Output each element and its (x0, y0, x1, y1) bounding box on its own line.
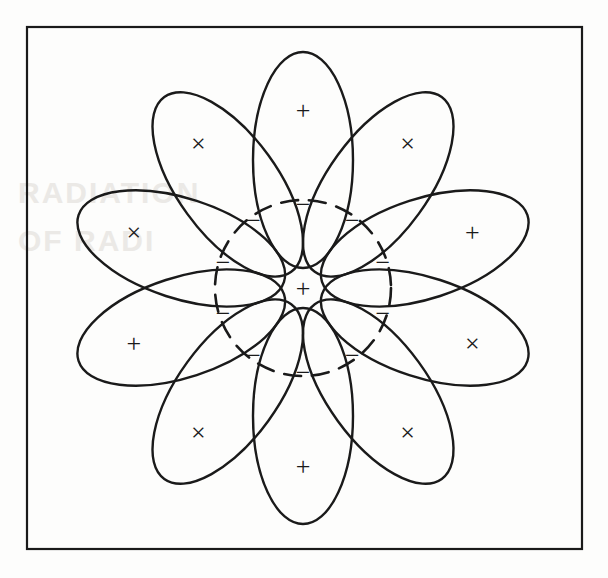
petal-outer-marker-left-upper: × (126, 218, 141, 247)
petal-inner-marker-top: − (296, 190, 311, 219)
center-plus-marker: + (296, 274, 311, 303)
petal-outer-marker-left-lower: + (126, 329, 141, 358)
petal-inner-marker-lower-right: − (345, 341, 360, 370)
petal-outer-marker-upper-right: × (400, 129, 415, 158)
petal-outer-marker-upper-left: × (191, 129, 206, 158)
petal-ellipse-right-lower (307, 247, 543, 409)
petal-outer-marker-lower-left: × (191, 418, 206, 447)
petal-inner-marker-upper-left: − (246, 206, 261, 235)
petal-outer-marker-top: + (296, 96, 311, 125)
petal-inner-marker-left-upper: − (216, 248, 231, 277)
petal-outer-marker-lower-right: × (400, 418, 415, 447)
petal-outer-marker-right-upper: + (465, 218, 480, 247)
petal-inner-marker-upper-right: − (345, 206, 360, 235)
petal-inner-marker-lower-left: − (246, 341, 261, 370)
petal-inner-marker-right-lower: − (376, 299, 391, 328)
petal-inner-marker-right-upper: − (376, 248, 391, 277)
petal-outer-marker-right-lower: × (465, 329, 480, 358)
petal-inner-marker-bottom: − (296, 358, 311, 387)
petal-ellipse-left-lower (63, 247, 299, 409)
petal-inner-marker-left-lower: − (216, 299, 231, 328)
figure-canvas: RADIATION OF RADI −−−−−−−−−− +×+××+×+×× … (0, 0, 608, 578)
rosette-diagram: −−−−−−−−−− +×+××+×+×× + (0, 0, 608, 578)
petal-outer-marker-bottom: + (296, 452, 311, 481)
petal-ellipse-right-upper (307, 168, 543, 330)
petal-ellipse-left-upper (63, 168, 299, 330)
